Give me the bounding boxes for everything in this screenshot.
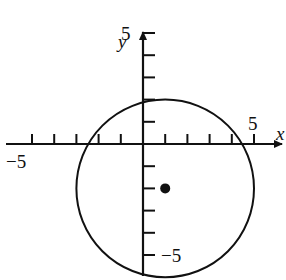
x-tick-label: −5 (6, 151, 26, 172)
x-tick-label: 5 (248, 113, 258, 134)
x-axis-label: x (275, 123, 285, 144)
y-tick-label: 5 (121, 23, 131, 44)
y-tick-label: −5 (161, 245, 181, 266)
coordinate-plane: x y −555−5 (0, 0, 286, 280)
center-point (160, 183, 170, 193)
